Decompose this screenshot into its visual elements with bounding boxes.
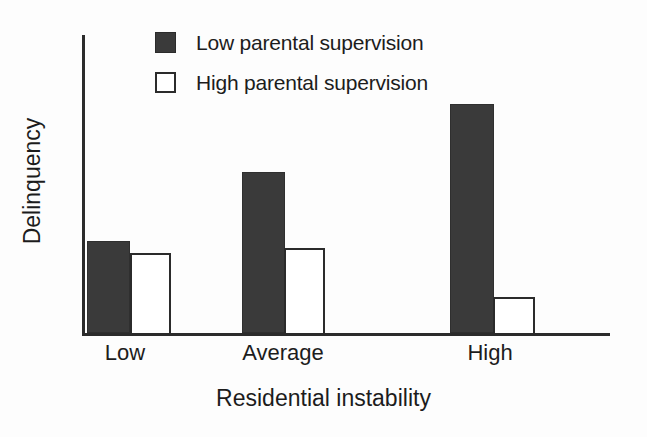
bar-low-low-supervision bbox=[87, 241, 130, 333]
x-tick-label-low: Low bbox=[70, 340, 180, 366]
x-tick-label-average: Average bbox=[228, 340, 338, 366]
x-axis-line bbox=[82, 333, 610, 336]
bar-high-high-supervision bbox=[493, 297, 535, 333]
chart-figure: Low parental supervision High parental s… bbox=[0, 0, 647, 437]
bar-high-low-supervision bbox=[450, 104, 494, 333]
y-axis-title: Delinquency bbox=[19, 86, 45, 276]
plot-area bbox=[85, 35, 610, 333]
x-axis-title: Residential instability bbox=[0, 385, 647, 411]
bar-low-high-supervision bbox=[130, 253, 171, 333]
x-tick-label-high: High bbox=[435, 340, 545, 366]
bar-average-low-supervision bbox=[242, 172, 285, 333]
bar-average-high-supervision bbox=[284, 248, 325, 333]
